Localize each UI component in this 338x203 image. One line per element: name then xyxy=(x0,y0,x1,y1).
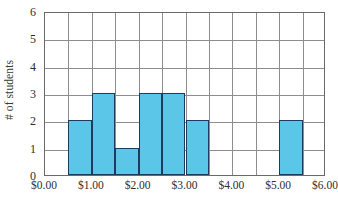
x-axis-tick-label: $0.00 xyxy=(31,180,57,192)
x-axis-tick-label: $4.00 xyxy=(218,180,244,192)
histogram-bar xyxy=(279,120,302,175)
y-axis-tick-labels: 0123456 xyxy=(18,12,40,176)
y-axis-title: # of students xyxy=(0,0,18,180)
histogram-bar xyxy=(162,93,185,175)
y-axis-tick-label: 2 xyxy=(30,115,36,127)
histogram-chart: # of students 0123456 $0.00$1.00$2.00$3.… xyxy=(0,0,338,203)
y-axis-title-label: # of students xyxy=(3,60,15,120)
x-axis-tick-label: $1.00 xyxy=(78,180,104,192)
histogram-bar xyxy=(186,120,209,175)
x-axis-tick-label: $6.00 xyxy=(312,180,338,192)
x-axis-tick-labels: $0.00$1.00$2.00$3.00$4.00$5.00$6.00 xyxy=(44,180,325,200)
y-axis-tick-label: 1 xyxy=(30,143,36,155)
plot-area xyxy=(44,12,325,176)
bars-container xyxy=(45,13,324,175)
histogram-bar xyxy=(68,120,91,175)
histogram-bar xyxy=(92,93,115,175)
x-axis-tick-label: $5.00 xyxy=(265,180,291,192)
x-axis-tick-label: $3.00 xyxy=(172,180,198,192)
y-axis-tick-label: 3 xyxy=(30,88,36,100)
y-axis-tick-label: 4 xyxy=(30,61,36,73)
y-axis-tick-label: 5 xyxy=(30,33,36,45)
x-axis-tick-label: $2.00 xyxy=(125,180,151,192)
histogram-bar xyxy=(139,93,162,175)
histogram-bar xyxy=(115,148,138,175)
y-axis-tick-label: 6 xyxy=(30,6,36,18)
